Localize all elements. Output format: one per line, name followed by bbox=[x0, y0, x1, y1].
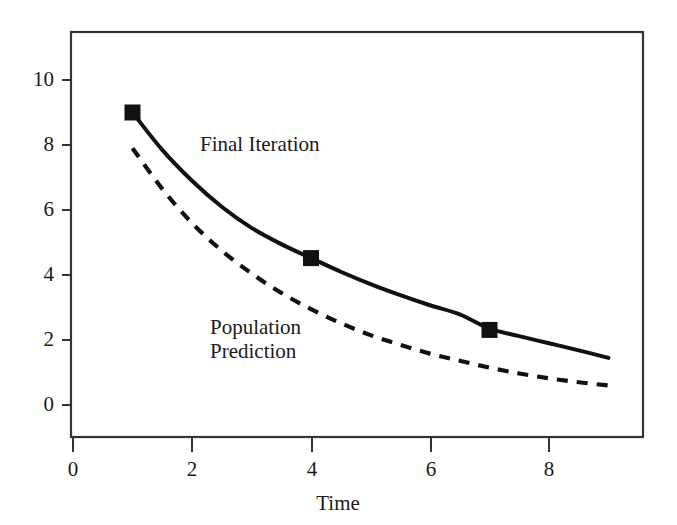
annotation-prediction: Prediction bbox=[210, 339, 296, 363]
x-tick-label-4: 4 bbox=[292, 459, 332, 480]
series-population-prediction bbox=[133, 148, 609, 385]
x-tick-label-2: 2 bbox=[172, 459, 212, 480]
y-tick-label-10: 10 bbox=[14, 69, 54, 90]
x-tick-label-8: 8 bbox=[529, 459, 569, 480]
y-tick-label-8: 8 bbox=[14, 134, 54, 155]
data-point-marker bbox=[125, 105, 141, 121]
y-tick-label-4: 4 bbox=[14, 264, 54, 285]
y-axis-ticks bbox=[62, 80, 71, 405]
x-tick-label-0: 0 bbox=[53, 459, 93, 480]
data-point-marker bbox=[303, 250, 319, 266]
x-axis-title: Time bbox=[258, 491, 418, 516]
y-tick-label-6: 6 bbox=[14, 199, 54, 220]
series-final-iteration bbox=[125, 105, 609, 358]
y-tick-label-2: 2 bbox=[14, 329, 54, 350]
chart-canvas bbox=[0, 0, 677, 525]
x-tick-label-6: 6 bbox=[411, 459, 451, 480]
plot-frame bbox=[71, 32, 643, 437]
y-tick-label-0: 0 bbox=[14, 394, 54, 415]
data-point-marker bbox=[482, 322, 498, 338]
annotation-final-iteration: Final Iteration bbox=[200, 132, 320, 156]
series-line-dashed bbox=[133, 148, 609, 385]
x-axis-spine bbox=[73, 437, 643, 452]
figure-container: 10 8 6 4 2 0 0 2 4 6 8 Time Final Iterat… bbox=[0, 0, 677, 525]
annotation-population: Population bbox=[210, 315, 301, 339]
